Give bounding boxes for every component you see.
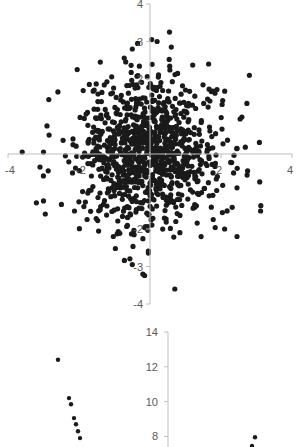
data-point [140, 183, 145, 188]
data-point [201, 101, 206, 106]
data-point [220, 102, 225, 107]
data-point [125, 215, 130, 220]
data-point [97, 137, 102, 142]
data-point [135, 114, 140, 119]
data-point [133, 107, 138, 112]
data-point [257, 140, 262, 145]
data-point [138, 200, 143, 205]
data-point [106, 115, 111, 120]
data-point [179, 92, 184, 97]
data-point [167, 99, 172, 104]
y-tick-label: 10 [146, 396, 158, 408]
data-point [200, 82, 205, 87]
data-point [157, 94, 162, 99]
data-point [104, 213, 109, 218]
data-point [61, 138, 66, 143]
data-point [225, 208, 230, 213]
data-point [165, 146, 170, 151]
data-points [20, 29, 264, 291]
data-point [258, 208, 263, 213]
data-point [204, 163, 209, 168]
data-point [98, 132, 103, 137]
x-tick-label: -2 [76, 164, 86, 176]
data-point [140, 236, 145, 241]
data-point [144, 175, 149, 180]
data-point [179, 193, 184, 198]
data-point [120, 214, 125, 219]
data-point [81, 204, 86, 209]
data-point [214, 176, 219, 181]
data-point [207, 156, 212, 161]
data-point [175, 180, 180, 185]
data-point [196, 127, 201, 132]
data-point [197, 132, 202, 137]
data-point [152, 138, 157, 143]
data-point [127, 256, 132, 261]
data-point [85, 123, 90, 128]
data-point [112, 188, 117, 193]
data-point [189, 164, 194, 169]
data-point [105, 190, 110, 195]
data-point [129, 70, 134, 75]
data-point [207, 128, 212, 133]
data-point [46, 97, 51, 102]
data-point [133, 156, 138, 161]
data-point [99, 90, 104, 95]
data-point [164, 122, 169, 127]
data-point [150, 177, 155, 182]
data-point [162, 135, 167, 140]
scatter-plot-bottom: 1412108 [0, 315, 296, 447]
data-point [159, 107, 164, 112]
data-point [104, 79, 109, 84]
data-point [175, 197, 180, 202]
data-point [181, 163, 186, 168]
data-point [106, 165, 111, 170]
data-point [130, 244, 135, 249]
data-point [92, 137, 97, 142]
data-point [205, 96, 210, 101]
data-point [173, 205, 178, 210]
data-point [231, 170, 236, 175]
data-point [230, 205, 235, 210]
y-tick-label: 2 [137, 73, 143, 85]
data-point [179, 203, 184, 208]
data-point [196, 148, 201, 153]
data-point [160, 116, 165, 121]
data-point [210, 170, 215, 175]
data-point [142, 169, 147, 174]
data-point [155, 109, 160, 114]
data-point [123, 118, 128, 123]
data-point [136, 142, 141, 147]
data-point [192, 125, 197, 130]
scatter-plot-top: -4-224 432-2-3-4 [0, 0, 296, 315]
data-point [80, 189, 85, 194]
data-point [125, 204, 130, 209]
data-point [126, 194, 131, 199]
data-point [137, 64, 142, 69]
data-point [113, 246, 118, 251]
data-point [43, 211, 48, 216]
data-point [173, 112, 178, 117]
data-point [118, 168, 123, 173]
data-point [160, 227, 165, 232]
data-point [183, 152, 188, 157]
data-point [81, 88, 86, 93]
data-point [83, 200, 88, 205]
data-point [151, 154, 156, 159]
data-point [219, 127, 224, 132]
data-point [155, 39, 160, 44]
data-point [199, 171, 204, 176]
y-axis-ticks: 1412108 [146, 326, 168, 442]
data-point [146, 85, 151, 90]
data-point [162, 183, 167, 188]
data-point [118, 146, 123, 151]
data-point [243, 145, 248, 150]
data-point [55, 89, 60, 94]
data-point [142, 96, 147, 101]
data-point [173, 107, 178, 112]
data-point [164, 156, 169, 161]
data-point [170, 79, 175, 84]
data-point [95, 218, 100, 223]
data-point [122, 158, 127, 163]
data-point [197, 167, 202, 172]
